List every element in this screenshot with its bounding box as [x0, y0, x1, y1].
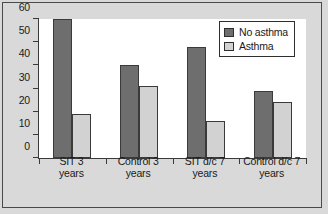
- legend-item-label: No asthma: [239, 26, 288, 38]
- legend-item: Asthma: [224, 39, 288, 53]
- bar: [187, 47, 206, 158]
- legend-item: No asthma: [224, 25, 288, 39]
- y-axis-tick-label: 0: [24, 140, 30, 152]
- y-axis-tick-label: 30: [19, 71, 30, 83]
- legend-item-label: Asthma: [239, 40, 273, 52]
- bar: [72, 114, 91, 158]
- y-axis-tick-label: 20: [19, 94, 30, 106]
- bar: [273, 102, 292, 158]
- y-axis-tick-label: 60: [19, 1, 30, 13]
- chart-figure: 0102030405060 SIT 3yearsControl 3yearsSI…: [2, 2, 322, 208]
- y-axis-tick-label: 50: [19, 24, 30, 36]
- x-axis-category-label-line: Control d/c 7: [238, 155, 305, 167]
- chart-legend: No asthmaAsthma: [219, 21, 295, 57]
- x-axis-category-label: SIT d/c 7years: [172, 155, 239, 179]
- bar: [139, 86, 158, 158]
- bar-group: [106, 19, 173, 158]
- x-axis-category-label-line: years: [238, 167, 305, 179]
- x-axis-category-label-line: years: [172, 167, 239, 179]
- legend-swatch-icon: [224, 42, 234, 51]
- x-axis-category-label: SIT 3years: [38, 155, 105, 179]
- y-axis-tick-label: 40: [19, 47, 30, 59]
- x-axis-category-label-line: Control 3: [105, 155, 172, 167]
- bar: [206, 121, 225, 158]
- x-axis-tick: [306, 158, 307, 164]
- bar-group: [39, 19, 106, 158]
- bar: [254, 91, 273, 158]
- bar: [120, 65, 139, 158]
- x-axis-category-label: Control 3years: [105, 155, 172, 179]
- x-axis-category-label-line: years: [105, 167, 172, 179]
- x-axis-category-label-line: years: [38, 167, 105, 179]
- legend-swatch-icon: [224, 28, 234, 37]
- bar: [53, 19, 72, 158]
- x-axis-category-label-line: SIT d/c 7: [172, 155, 239, 167]
- y-axis-tick-label: 10: [19, 117, 30, 129]
- x-axis-category-label: Control d/c 7years: [238, 155, 305, 179]
- x-axis-category-label-line: SIT 3: [38, 155, 105, 167]
